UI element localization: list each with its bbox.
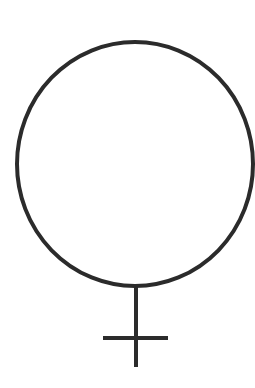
canvas <box>0 0 255 388</box>
female-symbol-icon <box>0 0 255 388</box>
symbol-circle <box>17 42 253 286</box>
